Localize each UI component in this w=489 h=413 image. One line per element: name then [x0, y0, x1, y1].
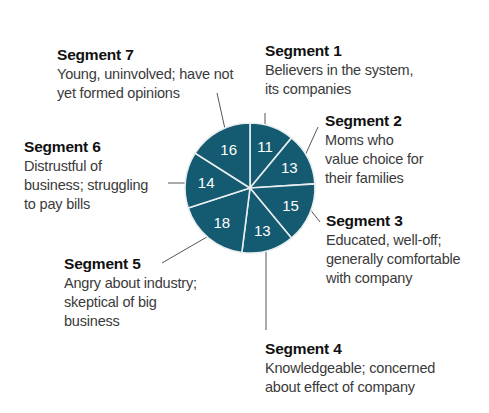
segment-title: Segment 2: [325, 111, 423, 131]
segment-title: Segment 5: [64, 254, 197, 274]
segment-title: Segment 4: [265, 339, 435, 359]
segment-description: Young, uninvolved; have not yet formed o…: [57, 65, 233, 103]
slice-value-label: 11: [257, 138, 273, 155]
label-segment-4: Segment 4 Knowledgeable; concerned about…: [265, 339, 435, 397]
label-segment-5: Segment 5 Angry about industry; skeptica…: [64, 254, 197, 331]
slice-value-label: 16: [220, 141, 237, 158]
label-segment-6: Segment 6 Distrustful of business; strug…: [24, 137, 148, 214]
slice-value-label: 13: [281, 159, 298, 176]
segment-description: Moms who value choice for their families: [325, 131, 423, 188]
slice-value-label: 13: [254, 222, 271, 239]
label-segment-1: Segment 1 Believers in the system, its c…: [265, 41, 413, 99]
slice-value-label: 15: [282, 197, 299, 214]
slice-value-label: 14: [198, 174, 215, 191]
segment-title: Segment 3: [326, 211, 460, 231]
label-segment-3: Segment 3 Educated, well-off; generally …: [326, 211, 460, 288]
segment-description: Angry about industry; skeptical of big b…: [64, 274, 197, 331]
segment-description: Believers in the system, its companies: [265, 61, 413, 99]
segment-description: Distrustful of business; struggling to p…: [24, 157, 148, 214]
segment-description: Knowledgeable; concerned about effect of…: [265, 359, 435, 397]
segment-description: Educated, well-off; generally comfortabl…: [326, 231, 460, 288]
segment-title: Segment 1: [265, 41, 413, 61]
segment-pie-chart: 11131513181416 Segment 1 Believers in th…: [0, 0, 489, 413]
slice-value-label: 18: [213, 214, 230, 231]
label-segment-2: Segment 2 Moms who value choice for thei…: [325, 111, 423, 188]
segment-title: Segment 6: [24, 137, 148, 157]
segment-title: Segment 7: [57, 45, 233, 65]
label-segment-7: Segment 7 Young, uninvolved; have not ye…: [57, 45, 233, 103]
